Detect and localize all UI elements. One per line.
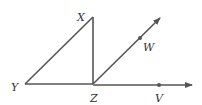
label-z: Z bbox=[89, 92, 98, 105]
label-x: X bbox=[76, 11, 86, 24]
label-w: W bbox=[143, 41, 156, 54]
label-v: V bbox=[155, 92, 164, 105]
point-w bbox=[138, 36, 142, 40]
geometry-diagram: X Y Z W V bbox=[0, 0, 202, 105]
segment-yx bbox=[25, 17, 93, 84]
label-y: Y bbox=[11, 81, 20, 94]
point-v bbox=[157, 83, 161, 87]
